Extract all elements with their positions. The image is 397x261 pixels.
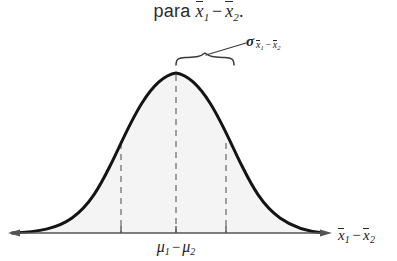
sigma-annotation-label: σx1−x2 [246,33,280,51]
title-minus-sign: − [209,1,225,21]
distribution-chart [0,0,397,261]
sigma-sub-xbar-2: x2 [273,40,281,52]
axis-xbar-1-base: x [338,228,345,243]
title-xbar-1-base: x [195,2,203,20]
curve-fill-area [12,73,324,233]
sigma-leader-line [206,43,246,55]
axis-label-minus-sign: − [350,227,363,243]
mean-label-minus-sign: − [170,239,183,255]
x-axis-label: x1−x2 [338,227,375,245]
mu-1-base: μ [157,238,165,255]
figure-container: para x1−x2. σx1−x2 μ1−μ2 x1−x2 [0,0,397,261]
mu-2-base: μ [182,238,190,255]
title-xbar-1-subscript: 1 [203,11,209,23]
title-xbar-2: x2 [225,2,239,23]
axis-arrow-right-icon [320,230,332,237]
sigma-symbol: σ [246,33,254,49]
sigma-sub-xbar-2-base: x [273,40,277,50]
sigma-sub-xbar-2-subscript: 2 [277,44,280,51]
figure-title: para x1−x2. [0,2,397,23]
sigma-sub-xbar-1-subscript: 1 [261,44,264,51]
axis-xbar-1: x1 [338,228,350,245]
axis-arrow-left-icon [8,230,20,237]
sigma-sub-xbar-1: x1 [256,40,264,52]
title-xbar-2-base: x [225,2,233,20]
sigma-sub-xbar-1-base: x [256,40,260,50]
axis-xbar-2-subscript: 2 [370,234,375,245]
axis-xbar-1-subscript: 1 [345,234,350,245]
mean-label-inner: μ1−μ2 [157,239,196,257]
title-xbar-2-subscript: 2 [233,11,239,23]
axis-xbar-2-base: x [363,228,370,243]
title-period: . [239,1,244,21]
title-xbar-1: x1 [195,2,209,23]
sigma-subscript: x1−x2 [254,39,280,50]
sigma-sub-minus-sign: − [264,39,273,50]
mu-2: μ2 [182,238,195,255]
title-word-para: para [154,1,191,21]
mu-2-subscript: 2 [190,246,195,257]
mu-1: μ1 [157,238,170,255]
sigma-brace [176,53,234,65]
axis-xbar-2: x2 [363,228,375,245]
